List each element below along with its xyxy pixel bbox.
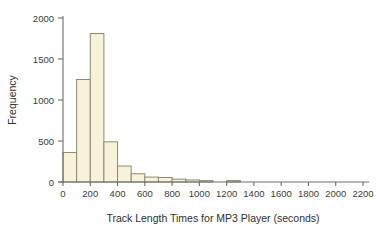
x-tick-label: 1600 — [271, 188, 292, 199]
x-tick-label: 400 — [110, 188, 126, 199]
histogram-bar — [104, 142, 118, 182]
x-tick-label: 2200 — [352, 188, 373, 199]
bars-group — [63, 34, 240, 182]
y-tick-label: 1000 — [33, 95, 54, 106]
y-tick-label: 500 — [38, 136, 54, 147]
histogram-bar — [145, 177, 159, 182]
x-tick-label: 2000 — [325, 188, 346, 199]
x-tick-label: 1200 — [216, 188, 237, 199]
x-tick-label: 1800 — [298, 188, 319, 199]
histogram-bar — [90, 34, 104, 182]
x-axis-ticks: 0200400600800100012001400160018002000220… — [60, 182, 373, 199]
histogram-bar — [131, 174, 145, 182]
y-axis-title: Frequency — [6, 74, 18, 124]
histogram-bar — [77, 80, 91, 183]
histogram-bar — [63, 152, 77, 182]
histogram-bar — [118, 166, 132, 182]
x-tick-label: 800 — [164, 188, 180, 199]
x-tick-label: 1400 — [243, 188, 264, 199]
y-tick-label: 0 — [49, 177, 54, 188]
y-axis-ticks: 0500100015002000 — [33, 13, 63, 188]
x-tick-label: 1000 — [189, 188, 210, 199]
x-tick-label: 0 — [60, 188, 65, 199]
y-tick-label: 1500 — [33, 54, 54, 65]
histogram-figure: 0200400600800100012001400160018002000220… — [0, 0, 377, 236]
x-tick-label: 600 — [137, 188, 153, 199]
y-tick-label: 2000 — [33, 13, 54, 24]
x-axis-title: Track Length Times for MP3 Player (secon… — [106, 212, 319, 224]
histogram-canvas: 0200400600800100012001400160018002000220… — [0, 0, 377, 236]
x-tick-label: 200 — [82, 188, 98, 199]
histogram-bar — [158, 177, 172, 182]
